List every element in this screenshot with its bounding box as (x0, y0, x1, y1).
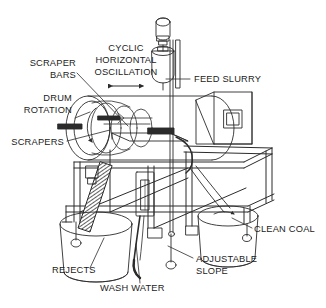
label-rejects: REJECTS (52, 265, 96, 275)
leader-adjustable-slope (168, 246, 193, 258)
label-feed-slurry: FEED SLURRY (194, 74, 261, 84)
label-scraper-bars-line1: SCRAPER (30, 58, 76, 68)
reject-chute (78, 162, 112, 232)
label-drum-rotation-line2: ROTATION (24, 105, 72, 115)
label-scraper-bars-line2: BARS (50, 70, 76, 80)
label-cyclic-line1: CYCLIC (108, 43, 143, 53)
feed-tank (152, 40, 180, 90)
gearbox-housing (196, 92, 252, 144)
label-wash-water: WASH WATER (100, 283, 165, 293)
leader-scrapers (67, 130, 110, 141)
label-drum-rotation-line1: DRUM (43, 93, 72, 103)
clean-coal-chute (190, 166, 230, 212)
scraper-blade (112, 133, 192, 173)
leader-rejects (90, 238, 104, 268)
drum-internal-spiral (91, 101, 152, 156)
label-cyclic-line3: OSCILLATION (95, 67, 158, 77)
label-adjustable-slope-line2: SLOPE (196, 266, 228, 276)
diagram-canvas: CYCLIC HORIZONTAL OSCILLATION SCRAPER BA… (0, 0, 326, 308)
separator-diagram: CYCLIC HORIZONTAL OSCILLATION SCRAPER BA… (0, 0, 326, 308)
label-scrapers: SCRAPERS (11, 137, 64, 147)
label-adjustable-slope-line1: ADJUSTABLE (196, 254, 257, 264)
label-clean-coal: CLEAN COAL (254, 224, 315, 234)
label-cyclic-line2: HORIZONTAL (95, 55, 156, 65)
